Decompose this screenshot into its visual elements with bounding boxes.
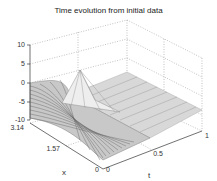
z-tick-neg5: -5 — [19, 98, 25, 105]
x-tick-3-14: 3.14 — [10, 124, 24, 131]
x-tick-1-57: 1.57 — [46, 145, 60, 152]
x-tick-0: 0 — [95, 166, 99, 173]
t-tick-1: 1 — [205, 132, 209, 139]
t-tick-0: 0 — [106, 166, 110, 173]
t-tick-0-5: 0.5 — [153, 150, 163, 157]
z-tick-10: 10 — [17, 41, 25, 48]
z-tick-5: 5 — [21, 60, 25, 67]
z-tick-neg10: -10 — [15, 116, 25, 123]
x-axis-label: x — [62, 168, 66, 177]
z-tick-0: 0 — [21, 79, 25, 86]
surface-plot: 10 5 0 -5 -10 3.14 1.57 0 x 0 0.5 1 t — [0, 0, 217, 181]
t-axis-label: t — [148, 171, 151, 180]
